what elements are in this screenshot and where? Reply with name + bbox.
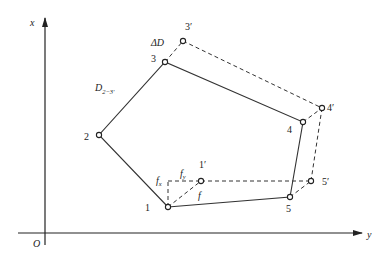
label-1: 1 xyxy=(145,202,150,213)
node-4 xyxy=(300,119,305,124)
closure-error-f xyxy=(168,181,201,207)
fx-label: fx xyxy=(156,175,162,187)
displaced-traverse xyxy=(165,41,322,207)
node-5-prime xyxy=(308,178,313,183)
node-5 xyxy=(287,194,292,199)
point-labels: 1 2 3 4 5 1′ 3′ 4′ 5′ xyxy=(84,21,334,214)
label-3: 3 xyxy=(151,53,156,64)
node-4-prime xyxy=(319,105,324,110)
segment-4-4p xyxy=(303,108,322,122)
node-1 xyxy=(165,204,170,209)
label-1-prime: 1′ xyxy=(199,159,206,170)
traverse-adjustment-diagram: x y O xyxy=(0,0,391,262)
delta-d-segment xyxy=(165,41,183,62)
delta-d-label: ΔD xyxy=(150,37,165,48)
label-4-prime: 4′ xyxy=(327,102,334,113)
x-axis-label: x xyxy=(29,17,35,28)
label-2: 2 xyxy=(84,131,89,142)
label-5: 5 xyxy=(286,203,291,214)
node-2 xyxy=(96,132,101,137)
origin-label: O xyxy=(33,238,40,249)
node-3-prime xyxy=(180,38,185,43)
coordinate-axes: x y O xyxy=(18,17,372,249)
segment-3p-4p xyxy=(183,41,322,108)
f-label: f xyxy=(198,190,202,201)
segment-4p-5p xyxy=(311,108,322,181)
node-1-prime xyxy=(198,178,203,183)
label-3-prime: 3′ xyxy=(185,21,192,32)
fy-label: fy xyxy=(180,168,186,180)
segment-5-5p xyxy=(290,181,311,197)
annotations: ΔD D2−3′ f fx fy xyxy=(94,37,202,201)
label-4: 4 xyxy=(287,124,292,135)
y-axis-label: y xyxy=(366,229,372,240)
distance-d-subscript: 2−3′ xyxy=(102,88,115,95)
distance-d-label: D2−3′ xyxy=(94,82,115,95)
label-5-prime: 5′ xyxy=(322,176,329,187)
node-3 xyxy=(162,59,167,64)
